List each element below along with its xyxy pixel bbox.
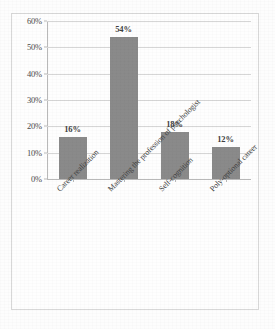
y-axis-tick-label: 30%: [27, 95, 42, 105]
bar-value-label: 16%: [64, 124, 80, 134]
chart-container: 60%50%40%30%20%10%0%16%54%18%12% Career …: [11, 13, 259, 310]
bar-value-label: 12%: [217, 134, 233, 144]
bar-value-label: 54%: [115, 24, 131, 34]
y-axis-tick-label: 60%: [27, 16, 42, 26]
y-axis-tick-label: 0%: [31, 174, 42, 184]
y-axis-tick-label: 20%: [27, 121, 42, 131]
bar[interactable]: [110, 37, 138, 179]
y-axis-tick-label: 10%: [27, 148, 42, 158]
y-axis-tick-label: 40%: [27, 69, 42, 79]
y-axis-tick-label: 50%: [27, 42, 42, 52]
